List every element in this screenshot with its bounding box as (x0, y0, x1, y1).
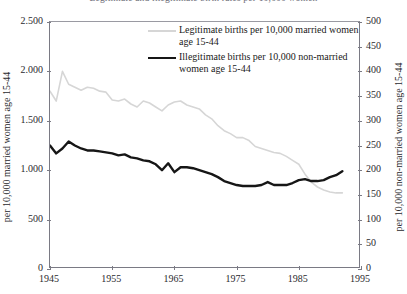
right-axis-tick-label: 300 (366, 115, 381, 125)
right-axis-tick (358, 220, 362, 221)
x-axis-tick-label: 1985 (278, 274, 318, 284)
right-axis-tick (358, 22, 362, 23)
right-axis-tick-label: 100 (366, 214, 381, 224)
right-axis-tick-label: 250 (366, 140, 381, 150)
left-axis-tick-label: 500 (28, 214, 43, 224)
chart-title-cropped: Legitimate and illegitimate birth rates … (0, 0, 407, 9)
left-axis-tick (47, 121, 51, 122)
left-axis-tick-label: 2.500 (21, 16, 44, 26)
legend-item-illegitimate: Illegitimate births per 10,000 non-marri… (148, 51, 363, 74)
x-axis-tick-labels: 194519551965197519851995 (49, 272, 360, 288)
x-axis-tick-label: 1955 (91, 274, 131, 284)
right-axis-tick (358, 170, 362, 171)
left-axis-tick (47, 170, 51, 171)
left-axis-tick-label: 1.500 (21, 115, 44, 125)
right-axis-tick-label: 0 (366, 263, 371, 273)
left-axis-tick-label: 2.000 (21, 65, 44, 75)
left-axis-tick-labels: 05001.0001.5002.0002.500 (0, 21, 43, 268)
left-axis-tick (47, 71, 51, 72)
x-axis-tick (299, 266, 300, 270)
right-axis-tick-labels: 050100150200250300350400450500 (366, 21, 406, 268)
right-axis-tick (358, 244, 362, 245)
left-axis-tick-label: 0 (38, 263, 43, 273)
x-axis-tick-label: 1945 (29, 274, 69, 284)
x-axis-tick (174, 266, 175, 270)
x-axis-tick (50, 266, 51, 270)
left-axis-tick-label: 1.000 (21, 164, 44, 174)
right-axis-tick-label: 450 (366, 41, 381, 51)
legend-swatch-legitimate (148, 30, 176, 32)
series-line-legitimate (50, 71, 342, 193)
legend-item-legitimate: Legitimate births per 10,000 married wom… (148, 24, 363, 47)
legend-swatch-illegitimate (148, 57, 176, 59)
right-axis-tick (358, 121, 362, 122)
right-axis-tick-label: 150 (366, 189, 381, 199)
x-axis-tick-label: 1995 (340, 274, 380, 284)
right-axis-tick (358, 146, 362, 147)
x-axis-tick (112, 266, 113, 270)
x-axis-tick (361, 266, 362, 270)
legend-label-illegitimate: Illegitimate births per 10,000 non-marri… (179, 51, 363, 74)
right-axis-tick-label: 350 (366, 90, 381, 100)
x-axis-tick-label: 1975 (216, 274, 256, 284)
chart-figure: Legitimate and illegitimate birth rates … (0, 0, 407, 294)
left-axis-tick (47, 22, 51, 23)
right-axis-tick-label: 200 (366, 164, 381, 174)
right-axis-tick (358, 195, 362, 196)
right-axis-tick-label: 50 (366, 238, 376, 248)
chart-legend: Legitimate births per 10,000 married wom… (148, 24, 363, 78)
x-axis-tick (237, 266, 238, 270)
right-axis-tick-label: 400 (366, 65, 381, 75)
left-axis-tick (47, 220, 51, 221)
chart-title-text: Legitimate and illegitimate birth rates … (89, 0, 317, 3)
legend-label-legitimate: Legitimate births per 10,000 married wom… (179, 24, 363, 47)
right-axis-tick-label: 500 (366, 16, 381, 26)
right-axis-tick (358, 96, 362, 97)
x-axis-tick-label: 1965 (153, 274, 193, 284)
